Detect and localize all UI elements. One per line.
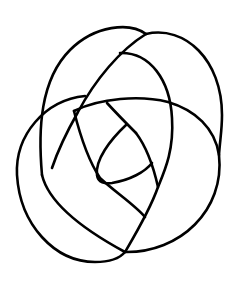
knot-strand-lower-sweep [42,175,125,252]
knot-strand-inner-diagonal [74,111,145,217]
knot-strand-top-left-arch [40,27,146,175]
knot-strand-inner-upper-continued [136,133,158,187]
knot-strand-inner-loop [97,125,152,183]
knot-strand-middle-arc [74,98,219,155]
knot-svg [0,0,246,286]
knot-strand-left-loop [17,96,125,262]
knot-strand-right-loop [125,33,222,252]
knot-diagram [0,0,246,286]
